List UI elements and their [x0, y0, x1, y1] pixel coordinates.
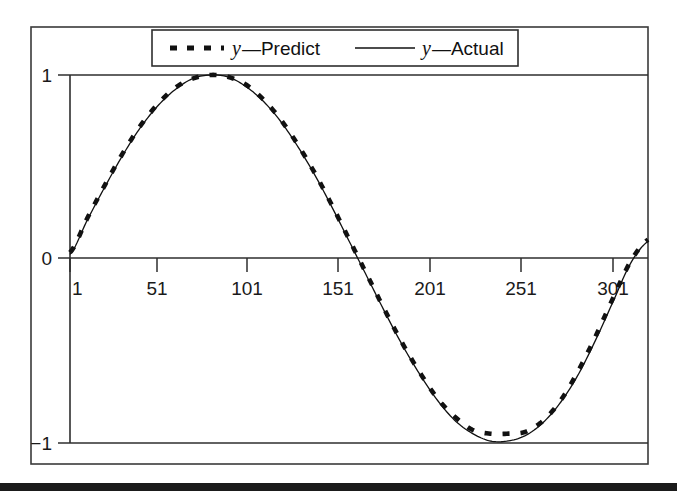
legend-label-actual: y—Actual	[420, 37, 504, 60]
legend-dash-predict: —	[242, 38, 261, 59]
x-tick-label-301: 301	[597, 278, 629, 299]
y-tick-label-1: 1	[41, 65, 52, 86]
chart-outer-frame	[31, 27, 648, 464]
x-tick-label-201: 201	[414, 278, 446, 299]
page-bottom-bar	[0, 483, 677, 491]
legend-variable-predict: y	[230, 37, 241, 60]
x-tick-label-1: 1	[72, 278, 83, 299]
x-tick-label-101: 101	[231, 278, 263, 299]
chart-figure: 1 0 −1 1 51 101 151 201 251 301 y—Predic…	[0, 0, 677, 495]
x-tick-label-151: 151	[322, 278, 354, 299]
legend-variable-actual: y	[420, 37, 431, 60]
legend-text-predict: Predict	[261, 38, 321, 59]
y-tick-label-0: 0	[41, 248, 52, 269]
chart-svg: 1 0 −1 1 51 101 151 201 251 301 y—Predic…	[0, 0, 677, 495]
x-tick-label-251: 251	[505, 278, 537, 299]
legend-dash-actual: —	[432, 38, 451, 59]
x-tick-label-51: 51	[146, 278, 167, 299]
legend-label-predict: y—Predict	[230, 37, 321, 60]
y-tick-label-minus-1: −1	[30, 433, 52, 454]
chart-legend: y—Predict y—Actual	[152, 30, 518, 66]
legend-text-actual: Actual	[451, 38, 504, 59]
